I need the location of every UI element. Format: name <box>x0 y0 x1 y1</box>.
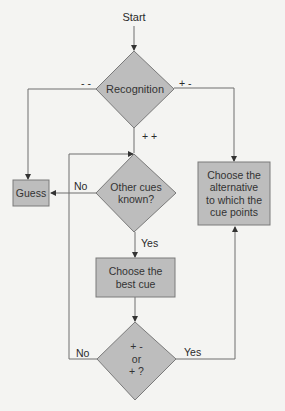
check-line-3: + ? <box>129 365 144 378</box>
edge-label-plus-minus: + - <box>179 77 192 89</box>
other-cues-label: Other cues known? <box>96 180 176 206</box>
choose-alternative-label: Choose the alternative to which the cue … <box>198 162 270 225</box>
check-label: + - or + ? <box>97 339 176 379</box>
flowchart: Start - - + - + + No Yes No Yes Recognit… <box>0 0 285 411</box>
best-cue-line-2: best cue <box>116 278 156 291</box>
edge-label-yes-check: Yes <box>184 346 201 358</box>
edge-recognition-alternative <box>174 88 234 161</box>
start-label: Start <box>122 11 145 23</box>
choose-alternative-line-1: Choose the <box>207 169 261 182</box>
edge-label-plus-plus: + + <box>142 130 157 142</box>
guess-label: Guess <box>13 180 49 206</box>
choose-alternative-line-4: cue points <box>210 206 258 219</box>
check-line-2: or <box>132 353 141 366</box>
edge-label-minus-minus: - - <box>81 77 91 89</box>
edge-label-no-othercues: No <box>74 180 87 192</box>
edge-recognition-guess <box>28 89 96 179</box>
choose-alternative-line-2: alternative <box>210 181 258 194</box>
other-cues-line-1: Other cues <box>110 181 161 194</box>
best-cue-line-1: Choose the <box>109 265 163 278</box>
edge-label-yes-othercues: Yes <box>141 237 158 249</box>
check-line-1: + - <box>130 340 143 353</box>
choose-alternative-line-3: to which the <box>206 194 262 207</box>
edge-label-no-check: No <box>76 347 89 359</box>
edge-check-alternative <box>176 227 235 359</box>
best-cue-label: Choose the best cue <box>96 258 175 297</box>
recognition-label: Recognition <box>96 82 174 96</box>
other-cues-line-2: known? <box>118 193 154 206</box>
